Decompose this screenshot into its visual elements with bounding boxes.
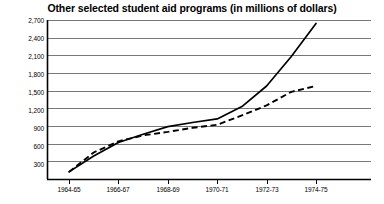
chart-figure: Other selected student aid programs (in … bbox=[0, 0, 384, 204]
plot-area bbox=[0, 0, 384, 204]
series-line-dashed bbox=[69, 86, 316, 172]
series-line-solid bbox=[69, 24, 316, 172]
gridlines bbox=[48, 21, 371, 162]
